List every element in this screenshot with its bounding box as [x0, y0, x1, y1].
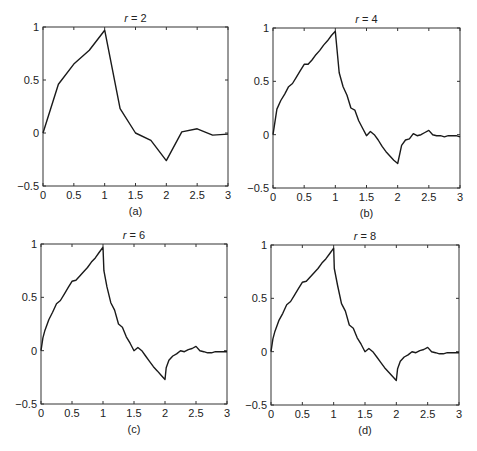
x-tick-label: 2	[163, 189, 169, 201]
x-tick-label: 2.5	[420, 408, 435, 420]
panel-caption: (a)	[129, 205, 142, 217]
x-tick-label: 1	[102, 189, 108, 201]
x-tick-label: 2	[395, 191, 401, 203]
y-tick-label: −0.5	[247, 182, 269, 194]
x-tick-label: 0.5	[297, 191, 312, 203]
x-tick-label: 3	[457, 191, 463, 203]
x-tick-label: 0.5	[66, 189, 81, 201]
data-curve	[273, 31, 460, 163]
x-tick-label: 0.5	[295, 408, 310, 420]
axes-frame	[271, 245, 459, 405]
y-tick-label: 0.5	[22, 291, 37, 303]
x-tick-label: 1	[332, 191, 338, 203]
x-tick-label: 0	[268, 408, 274, 420]
panel-a: 00.511.522.53−0.500.51r = 2(a)	[17, 12, 231, 217]
panel-c: 00.511.522.53−0.500.51r = 6(c)	[15, 229, 230, 435]
y-tick-label: 1	[33, 21, 39, 33]
x-tick-label: 0	[270, 191, 276, 203]
panel-caption: (b)	[360, 207, 373, 219]
axes-frame	[43, 27, 228, 186]
panel-title: r = 6	[123, 229, 145, 241]
x-tick-label: 3	[456, 408, 462, 420]
axes-frame	[273, 28, 460, 188]
x-tick-label: 1.5	[126, 407, 141, 419]
y-tick-label: 0	[263, 129, 269, 141]
x-tick-label: 1.5	[128, 189, 143, 201]
data-curve	[271, 248, 459, 380]
x-tick-label: 2.5	[188, 407, 203, 419]
panel-d: 00.511.522.53−0.500.51r = 8(d)	[245, 230, 462, 436]
panel-title: r = 2	[124, 12, 146, 24]
data-curve	[43, 30, 228, 160]
panel-caption: (d)	[358, 424, 371, 436]
y-tick-label: −0.5	[17, 180, 39, 192]
panel-b: 00.511.522.53−0.500.51r = 4(b)	[247, 13, 463, 219]
panel-title: r = 8	[354, 230, 376, 242]
x-tick-label: 3	[225, 189, 231, 201]
data-curve	[41, 247, 227, 379]
x-tick-label: 0.5	[64, 407, 79, 419]
x-tick-label: 2	[393, 408, 399, 420]
x-tick-label: 1	[331, 408, 337, 420]
panel-title: r = 4	[355, 13, 377, 25]
y-tick-label: 1	[31, 238, 37, 250]
y-tick-label: −0.5	[15, 398, 37, 410]
x-tick-label: 2.5	[190, 189, 205, 201]
y-tick-label: 0.5	[24, 74, 39, 86]
panel-caption: (c)	[128, 423, 141, 435]
y-tick-label: −0.5	[245, 399, 267, 411]
y-tick-label: 0.5	[254, 75, 269, 87]
y-tick-label: 1	[263, 22, 269, 34]
y-tick-label: 0	[33, 127, 39, 139]
x-tick-label: 2	[162, 407, 168, 419]
x-tick-label: 0	[40, 189, 46, 201]
x-tick-label: 1.5	[359, 191, 374, 203]
x-tick-label: 1	[100, 407, 106, 419]
y-tick-label: 0.5	[252, 292, 267, 304]
x-tick-label: 2.5	[421, 191, 436, 203]
y-tick-label: 1	[261, 239, 267, 251]
y-tick-label: 0	[261, 346, 267, 358]
x-tick-label: 3	[224, 407, 230, 419]
axes-frame	[41, 244, 227, 404]
y-tick-label: 0	[31, 345, 37, 357]
figure: 00.511.522.53−0.500.51r = 2(a)00.511.522…	[0, 0, 477, 451]
x-tick-label: 1.5	[357, 408, 372, 420]
x-tick-label: 0	[38, 407, 44, 419]
